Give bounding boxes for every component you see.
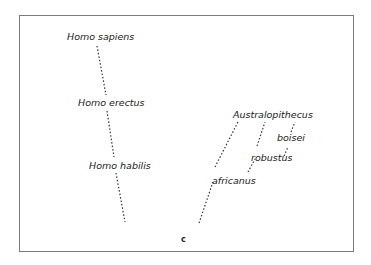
label-homo-erectus: Homo erectus — [78, 98, 145, 108]
panel-label: c — [181, 236, 186, 244]
lineage-lines — [0, 0, 371, 265]
label-robustus: robustus — [251, 153, 292, 163]
label-australopithecus: Australopithecus — [233, 110, 313, 120]
label-boisei: boisei — [277, 133, 305, 143]
label-homo-habilis: Homo habilis — [89, 161, 151, 171]
label-homo-sapiens: Homo sapiens — [67, 32, 134, 42]
label-africanus: africanus — [212, 176, 256, 186]
africanus-line — [199, 182, 213, 223]
boisei-upper-line — [291, 122, 295, 132]
africanus-upper-line — [215, 122, 238, 167]
homo-erectus-habilis-line — [107, 111, 114, 157]
homo-sapiens-erectus-line — [97, 46, 106, 95]
robustus-upper-line — [257, 122, 265, 146]
homo-habilis-base-line — [116, 173, 125, 222]
